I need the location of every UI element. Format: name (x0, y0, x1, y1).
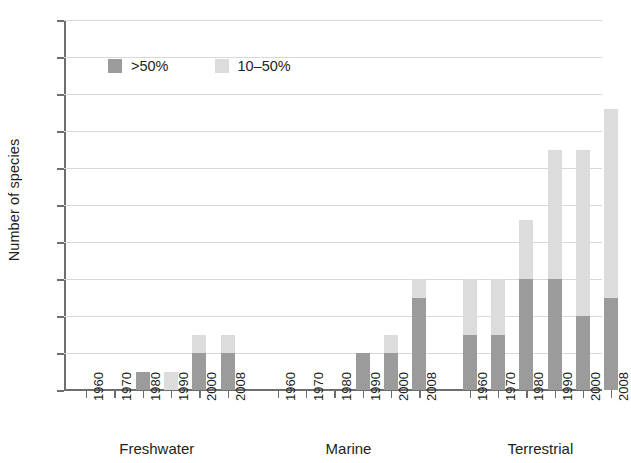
x-tick-label-text: 2000 (205, 372, 219, 401)
x-tick-label-text: 1990 (369, 372, 383, 401)
y-tick-mark (57, 57, 64, 59)
legend-label: 10–50% (238, 58, 291, 74)
bar (576, 150, 590, 391)
legend-label: >50% (131, 58, 169, 74)
bar-segment-10-50 (548, 150, 562, 280)
x-tick-mark (498, 390, 499, 398)
bar-segment-10-50 (384, 335, 398, 354)
y-tick-mark (57, 205, 64, 207)
bar (519, 220, 533, 390)
x-tick-label-text: 1960 (92, 372, 106, 401)
x-tick-mark (278, 390, 279, 398)
y-tick-mark (57, 242, 64, 244)
x-tick-label-text: 1980 (340, 372, 354, 401)
legend-item: >50% (108, 58, 169, 74)
x-tick-label-text: 2000 (589, 372, 603, 401)
legend: >50%10–50% (108, 58, 291, 74)
bar-segment-10-50 (192, 335, 206, 354)
x-tick-mark (86, 390, 87, 398)
x-tick-label-text: 1980 (532, 372, 546, 401)
gridline (64, 205, 602, 206)
x-tick-label-text: 1990 (561, 372, 575, 401)
x-tick-label-text: 2008 (617, 372, 631, 401)
bar-segment-10-50 (604, 109, 618, 298)
x-tick-mark (526, 390, 527, 398)
x-tick-mark (363, 390, 364, 398)
x-tick-mark (419, 390, 420, 398)
square-swatch-light-icon (215, 59, 229, 73)
bar-segment-10-50 (491, 279, 505, 335)
bar-segment-10-50 (221, 335, 235, 354)
x-tick-label-text: 2008 (425, 372, 439, 401)
gridline (64, 20, 602, 21)
y-tick-mark (57, 279, 64, 281)
x-tick-mark (228, 390, 229, 398)
bar (548, 150, 562, 391)
square-swatch-dark-icon (108, 59, 122, 73)
x-tick-mark (555, 390, 556, 398)
plot-area (64, 20, 602, 390)
x-tick-mark (611, 390, 612, 398)
x-tick-mark (199, 390, 200, 398)
y-tick-mark (57, 94, 64, 96)
gridline (64, 168, 602, 169)
bar-segment-10-50 (519, 220, 533, 279)
x-tick-label-text: 1990 (177, 372, 191, 401)
y-tick-mark (57, 390, 64, 392)
x-tick-mark (306, 390, 307, 398)
x-tick-mark (391, 390, 392, 398)
group-label: Marine (279, 440, 419, 457)
x-tick-mark (470, 390, 471, 398)
y-tick-mark (57, 168, 64, 170)
bar (604, 109, 618, 390)
bar-segment-10-50 (463, 279, 477, 335)
x-tick-mark (143, 390, 144, 398)
x-tick-mark (171, 390, 172, 398)
x-tick-label-text: 1980 (149, 372, 163, 401)
x-tick-mark (114, 390, 115, 398)
x-tick-label-text: 1970 (312, 372, 326, 401)
y-tick-mark (57, 316, 64, 318)
x-tick-label-text: 1960 (284, 372, 298, 401)
gridline (64, 94, 602, 95)
x-tick-mark (334, 390, 335, 398)
bar-segment-10-50 (576, 150, 590, 317)
x-tick-label-text: 1970 (504, 372, 518, 401)
y-tick-mark (57, 353, 64, 355)
x-tick-label-text: 2000 (397, 372, 411, 401)
x-tick-label-text: 2008 (234, 372, 248, 401)
x-tick-label-text: 1960 (476, 372, 490, 401)
legend-item: 10–50% (215, 58, 291, 74)
bar-segment-10-50 (412, 279, 426, 298)
y-tick-mark (57, 131, 64, 133)
gridline (64, 131, 602, 132)
y-tick-mark (57, 20, 64, 22)
x-tick-mark (583, 390, 584, 398)
x-tick-label-text: 1970 (120, 372, 134, 401)
group-label: Terrestrial (470, 440, 610, 457)
y-axis-title-label: Number of species (6, 139, 22, 262)
group-label: Freshwater (87, 440, 227, 457)
y-axis-title: Number of species (0, 0, 28, 400)
